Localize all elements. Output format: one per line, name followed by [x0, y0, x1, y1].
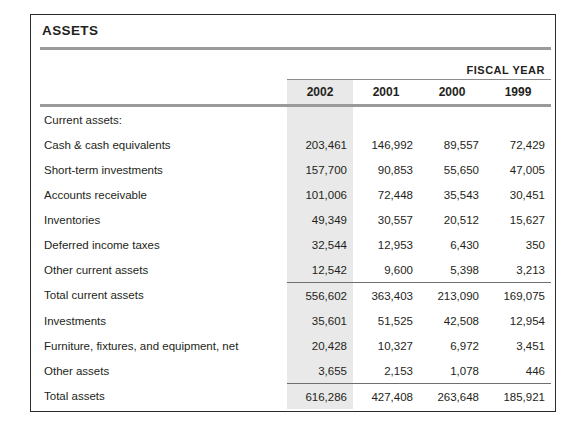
cell-1999: 3,451 [485, 333, 551, 358]
row-label: Deferred income taxes [40, 232, 287, 257]
year-header-row: 2002 2001 2000 1999 [40, 80, 551, 106]
row-label: Furniture, fixtures, and equipment, net [40, 333, 287, 358]
cell-2001: 90,853 [353, 157, 419, 182]
cell-1999: 47,005 [485, 157, 551, 182]
fiscal-year-group-header: FISCAL YEAR [287, 49, 551, 80]
cell-1999: 446 [485, 358, 551, 384]
cell-2001: 30,557 [353, 207, 419, 232]
cell-2000: 6,430 [419, 232, 485, 257]
cell-2001: 146,992 [353, 132, 419, 157]
cell-1999: 30,451 [485, 182, 551, 207]
cell-2002: 20,428 [287, 333, 353, 358]
cell-2002: 203,461 [287, 132, 353, 157]
fiscal-year-band-row: FISCAL YEAR [40, 49, 551, 80]
row-label: Short-term investments [40, 157, 287, 182]
cell-1999: 185,921 [485, 384, 551, 410]
table-row: Investments35,60151,52542,50812,954 [40, 308, 551, 333]
cell-1999 [485, 107, 551, 132]
table-row: Total current assets556,602363,403213,09… [40, 283, 551, 309]
table-row: Furniture, fixtures, and equipment, net2… [40, 333, 551, 358]
cell-2002: 616,286 [287, 384, 353, 410]
cell-2002: 35,601 [287, 308, 353, 333]
column-header-2002: 2002 [287, 80, 353, 106]
cell-2002: 32,544 [287, 232, 353, 257]
cell-1999: 12,954 [485, 308, 551, 333]
table-row: Cash & cash equivalents203,461146,99289,… [40, 132, 551, 157]
table-row: Short-term investments157,70090,85355,65… [40, 157, 551, 182]
row-label: Total assets [40, 384, 287, 410]
table-row: Other current assets12,5429,6005,3983,21… [40, 257, 551, 283]
cell-2000: 213,090 [419, 283, 485, 309]
page-root: ASSETS FISCAL YEAR 200 [0, 0, 580, 436]
year-header-label-cell [40, 80, 287, 106]
table-row: Accounts receivable101,00672,44835,54330… [40, 182, 551, 207]
cell-2000: 89,557 [419, 132, 485, 157]
table-row: Other assets3,6552,1531,078446 [40, 358, 551, 384]
cell-2002: 556,602 [287, 283, 353, 309]
table-row: Total assets616,286427,408263,648185,921 [40, 384, 551, 410]
cell-2002: 3,655 [287, 358, 353, 384]
column-header-2001: 2001 [353, 80, 419, 106]
cell-2002: 101,006 [287, 182, 353, 207]
row-label: Inventories [40, 207, 287, 232]
row-label: Other assets [40, 358, 287, 384]
table-body: Current assets:Cash & cash equivalents20… [40, 107, 551, 415]
cell-2001 [353, 107, 419, 132]
cell-2000: 5,398 [419, 257, 485, 283]
cell-1999: 350 [485, 232, 551, 257]
column-header-2000: 2000 [419, 80, 485, 106]
cell-2002: 157,700 [287, 157, 353, 182]
table-row: Deferred income taxes32,54412,9536,43035… [40, 232, 551, 257]
cell-2000: 55,650 [419, 157, 485, 182]
column-header-1999: 1999 [485, 80, 551, 106]
cell-1999: 15,627 [485, 207, 551, 232]
cell-2002: 49,349 [287, 207, 353, 232]
row-label: Accounts receivable [40, 182, 287, 207]
header-blank-label-cell [40, 49, 287, 80]
table-row: Current assets: [40, 107, 551, 132]
cell-2000 [419, 107, 485, 132]
row-label: Current assets: [40, 107, 287, 132]
cell-2000: 35,543 [419, 182, 485, 207]
table-header: FISCAL YEAR 2002 2001 2000 1999 [40, 49, 551, 108]
cell-2000: 263,648 [419, 384, 485, 410]
table-bottom-spacer [40, 409, 551, 415]
cell-2000: 1,078 [419, 358, 485, 384]
cell-1999: 72,429 [485, 132, 551, 157]
cell-2000: 6,972 [419, 333, 485, 358]
table-bottom-spacer-cell [40, 409, 551, 415]
cell-2001: 2,153 [353, 358, 419, 384]
cell-2001: 363,403 [353, 283, 419, 309]
cell-2002 [287, 107, 353, 132]
cell-2000: 42,508 [419, 308, 485, 333]
row-label: Cash & cash equivalents [40, 132, 287, 157]
row-label: Total current assets [40, 283, 287, 309]
assets-financial-table: FISCAL YEAR 2002 2001 2000 1999 Current … [40, 47, 551, 415]
cell-2000: 20,512 [419, 207, 485, 232]
assets-table-card: ASSETS FISCAL YEAR 200 [30, 14, 556, 412]
cell-1999: 169,075 [485, 283, 551, 309]
cell-2001: 10,327 [353, 333, 419, 358]
row-label: Other current assets [40, 257, 287, 283]
table-row: Inventories49,34930,55720,51215,627 [40, 207, 551, 232]
row-label: Investments [40, 308, 287, 333]
table-container: FISCAL YEAR 2002 2001 2000 1999 Current … [40, 47, 546, 403]
cell-2001: 72,448 [353, 182, 419, 207]
cell-2001: 12,953 [353, 232, 419, 257]
page-title: ASSETS [42, 23, 98, 38]
cell-2002: 12,542 [287, 257, 353, 283]
cell-2001: 427,408 [353, 384, 419, 410]
cell-2001: 51,525 [353, 308, 419, 333]
cell-2001: 9,600 [353, 257, 419, 283]
cell-1999: 3,213 [485, 257, 551, 283]
